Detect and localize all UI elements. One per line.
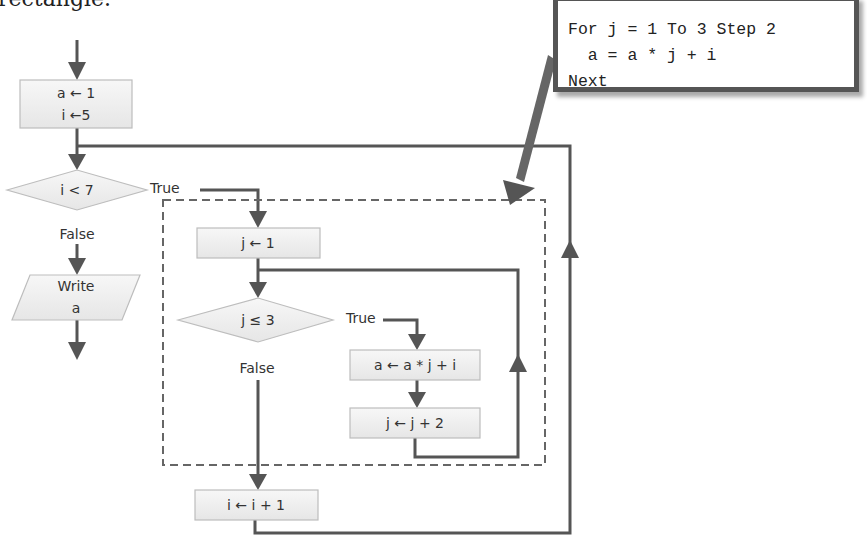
init-box-text: a ← 1 i ←5 [57,82,95,126]
code-line-3: Next [568,69,854,95]
arrow-up-icon [509,354,527,372]
arrow-down-icon [249,474,267,490]
arrow-down-icon [68,154,86,170]
arrow-down-icon [68,258,86,275]
outer-false-label: False [59,223,94,245]
code-callout: For j = 1 To 3 Step 2 a = a * j + i Next [553,0,859,92]
inner-decision-label: j ≤ 3 [241,309,274,331]
init-i-label: i ←5 [57,104,95,126]
outer-loop-line [77,146,570,533]
arrow-down-icon [408,334,426,350]
inner-false-label: False [239,357,274,379]
arrow-up-icon [561,240,579,258]
outer-decision-label: i < 7 [60,179,93,201]
inner-true-label: True [346,310,376,326]
callout-pointer [503,55,556,205]
write-label: Write [58,275,95,297]
arrow-down-icon [249,282,267,298]
code-line-2: a = a * j + i [568,43,854,69]
inner-init-label: j ← 1 [241,232,274,254]
init-a-label: a ← 1 [57,82,95,104]
outer-true-label: True [150,180,180,196]
arrow-down-icon [408,392,426,408]
body-label: a ← a * j + i [374,354,456,376]
output-text: Write a [58,275,95,319]
code-line-1: For j = 1 To 3 Step 2 [568,17,854,43]
write-var-label: a [58,297,95,319]
increment-i-label: i ← i + 1 [227,494,285,516]
increment-j-label: j ← j + 2 [386,412,444,434]
arrow-down-icon [249,211,267,228]
arrow-down-icon [68,62,86,80]
arrow-down-icon [68,342,86,360]
